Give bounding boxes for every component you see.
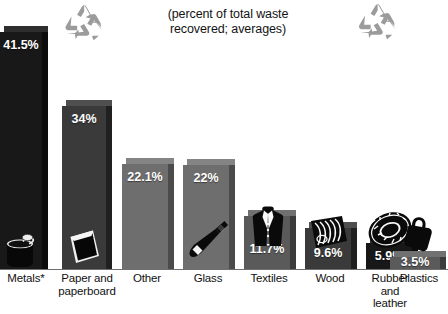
category-label-rubber-line3: leather [373, 297, 407, 309]
category-label-wood: Wood [303, 272, 357, 285]
category-label-paper-line1: Paper and [61, 272, 113, 284]
category-label-paper: Paper and paperboard [58, 272, 116, 297]
category-label-metals: Metals* [0, 272, 52, 285]
category-label-paper-line2: paperboard [58, 285, 115, 297]
axis-baseline [0, 269, 448, 270]
tin-can-icon [5, 227, 37, 267]
bar-side-face [42, 32, 48, 269]
bar-wood[interactable]: 9.6% [305, 222, 357, 269]
bar-side-face [168, 164, 174, 269]
bar-other[interactable]: 22.1% [122, 158, 174, 269]
wood-grain-icon [309, 215, 349, 251]
recycling-rate-bar-chart: (percent of total waste recovered; avera… [0, 0, 448, 314]
bar-metals[interactable]: 41.5% [0, 26, 48, 269]
bar-side-face [106, 106, 112, 269]
plot-area: 41.5% 34% [0, 0, 448, 269]
bar-side-face [351, 228, 357, 269]
bar-plastics[interactable]: 3.5% [390, 251, 446, 269]
category-label-other: Other [120, 272, 174, 285]
bar-value-plastics: 3.5% [390, 255, 440, 269]
paper-sheet-icon [67, 228, 102, 266]
category-label-textiles: Textiles [240, 272, 298, 285]
bar-value-paper: 34% [62, 112, 106, 126]
category-label-glass: Glass [181, 272, 235, 285]
bar-glass[interactable]: 22% [183, 159, 235, 269]
category-label-rubber-line2: and [381, 285, 400, 297]
bar-side-face [440, 257, 446, 269]
bar-value-glass: 22% [183, 171, 229, 185]
category-label-plastics: Plastics [392, 272, 446, 285]
bar-side-face [290, 216, 296, 269]
bottle-icon [188, 218, 230, 268]
bar-value-metals: 41.5% [0, 38, 42, 52]
bar-value-other: 22.1% [122, 170, 168, 184]
plastic-bag-icon [401, 215, 435, 253]
bar-textiles[interactable]: 11.7% [244, 210, 296, 269]
suit-jacket-icon [252, 205, 284, 247]
bar-paper[interactable]: 34% [62, 100, 112, 269]
